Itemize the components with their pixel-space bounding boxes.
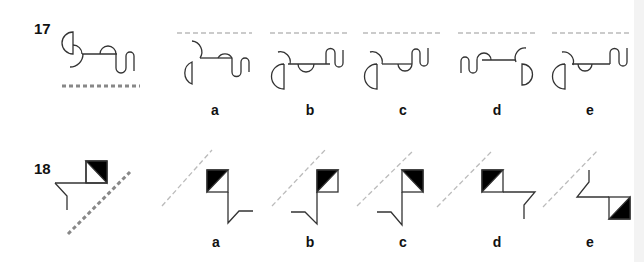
- q17-mirror-lines: [62, 33, 630, 86]
- q18-option-c-figure: [377, 170, 423, 225]
- q17-option-b-figure: [272, 49, 344, 90]
- q18-option-c-label[interactable]: c: [393, 234, 413, 250]
- q17-original-figure: [62, 32, 134, 73]
- q17-option-d-label[interactable]: d: [487, 102, 507, 118]
- q18-option-e-figure: [577, 170, 630, 219]
- q17-option-a-figure: [185, 41, 249, 84]
- q17-option-b-label[interactable]: b: [300, 102, 320, 118]
- q18-option-e-label[interactable]: e: [580, 234, 600, 250]
- q18-original-mirror-line: [68, 172, 130, 234]
- q17-option-c-figure: [365, 48, 429, 89]
- q18-option-a-figure: [207, 170, 253, 223]
- q17-option-d-figure: [461, 48, 533, 85]
- question-17-figures: [0, 0, 644, 262]
- q17-option-e-label[interactable]: e: [580, 102, 600, 118]
- question-number-18: 18: [34, 160, 51, 177]
- q18-option-b-figure: [291, 170, 338, 224]
- q17-option-c-label[interactable]: c: [393, 102, 413, 118]
- q18-option-d-label[interactable]: d: [487, 234, 507, 250]
- q17-option-a-label[interactable]: a: [205, 102, 225, 118]
- q18-option-d-figure: [482, 170, 535, 219]
- q17-option-e-figure: [553, 48, 628, 89]
- q18-option-b-label[interactable]: b: [300, 234, 320, 250]
- q18-option-a-label[interactable]: a: [206, 234, 226, 250]
